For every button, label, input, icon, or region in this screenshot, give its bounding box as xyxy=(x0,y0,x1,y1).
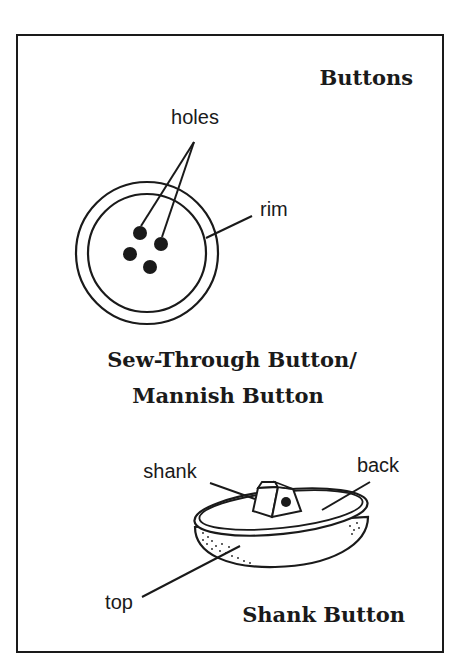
top-label: top xyxy=(105,591,133,613)
rim-label: rim xyxy=(260,198,288,220)
shank-button-illustration xyxy=(142,481,370,597)
button-outer-rim xyxy=(76,182,218,324)
button-hole xyxy=(154,237,168,251)
button-hole xyxy=(123,247,137,261)
button-inner-rim xyxy=(88,194,206,312)
button-hole xyxy=(133,226,147,240)
shank-label: shank xyxy=(143,460,197,482)
button-hole xyxy=(143,260,157,274)
holes-label: holes xyxy=(171,106,219,128)
sew-through-caption-line2: Mannish Button xyxy=(132,383,323,408)
holes-leader-line xyxy=(141,142,194,226)
buttons-diagram: Buttons holes rim Sew-Through Button/ Ma… xyxy=(0,0,457,658)
sew-through-caption-line1: Sew-Through Button/ xyxy=(107,347,357,372)
shank-leader-line xyxy=(210,483,255,499)
holes-leader-line xyxy=(162,142,194,237)
top-leader-line xyxy=(142,546,240,597)
sew-through-button-illustration xyxy=(76,142,252,324)
figure-title: Buttons xyxy=(319,65,413,90)
shank-button-caption: Shank Button xyxy=(242,602,405,627)
shank-hole xyxy=(281,497,291,507)
back-label: back xyxy=(357,454,400,476)
